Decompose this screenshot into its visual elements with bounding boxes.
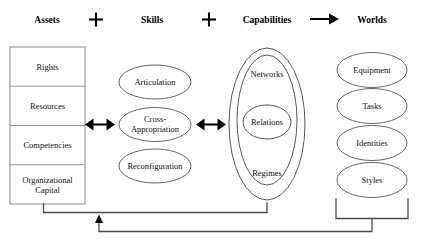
skills-label-cross-appropriation-line2: Appropriation <box>131 124 180 134</box>
skills-group: Articulation Cross- Appropriation Reconf… <box>119 65 191 183</box>
diagram-canvas: Assets Skills Capabilities Worlds Rights… <box>0 0 422 251</box>
bracket-worlds <box>336 199 408 219</box>
arrow-skills-capabilities-bidirectional <box>196 119 226 131</box>
capabilities-label-networks: Networks <box>250 69 283 79</box>
worlds-node-tasks: Tasks <box>337 89 407 124</box>
header-label-assets: Assets <box>34 15 60 25</box>
worlds-node-styles: Styles <box>337 163 407 198</box>
skills-label-reconfiguration: Reconfiguration <box>127 161 183 171</box>
worlds-label-identities: Identities <box>356 138 388 148</box>
assets-cell-organizational-capital-line1: Organizational <box>22 175 73 185</box>
diagram-svg: Assets Skills Capabilities Worlds Rights… <box>0 0 422 251</box>
plus-sign-icon-1 <box>89 13 103 27</box>
worlds-node-equipment: Equipment <box>337 53 407 88</box>
capabilities-group: Networks Relations Regimes <box>229 48 305 200</box>
capabilities-label-relations: Relations <box>251 117 283 127</box>
worlds-group: Equipment Tasks Identities Styles <box>337 53 407 198</box>
worlds-label-tasks: Tasks <box>362 101 381 111</box>
assets-cell-resources: Resources <box>30 101 65 111</box>
header-label-worlds: Worlds <box>357 15 387 25</box>
header-label-skills: Skills <box>141 15 163 25</box>
assets-cell-organizational-capital-line2: Capital <box>35 185 60 195</box>
skills-node-articulation: Articulation <box>119 65 191 99</box>
assets-cell-competencies: Competencies <box>23 140 71 150</box>
worlds-label-styles: Styles <box>362 175 383 185</box>
worlds-node-identities: Identities <box>337 126 407 161</box>
worlds-label-equipment: Equipment <box>353 65 391 75</box>
skills-label-articulation: Articulation <box>134 77 176 87</box>
feedback-loop-line <box>99 219 372 232</box>
skills-node-cross-appropriation: Cross- Appropriation <box>119 108 191 142</box>
arrow-assets-skills-bidirectional <box>85 119 115 131</box>
skills-node-reconfiguration: Reconfiguration <box>119 149 191 183</box>
plus-sign-icon-2 <box>202 13 216 27</box>
skills-label-cross-appropriation-line1: Cross- <box>144 114 166 124</box>
header-label-capabilities: Capabilities <box>243 15 292 25</box>
arrow-right-icon <box>310 14 339 25</box>
capabilities-label-regimes: Regimes <box>252 168 282 178</box>
assets-box: Rights Resources Competencies Organizati… <box>10 47 85 204</box>
assets-cell-rights: Rights <box>36 62 58 72</box>
feedback-arrow-up-icon <box>95 215 103 224</box>
